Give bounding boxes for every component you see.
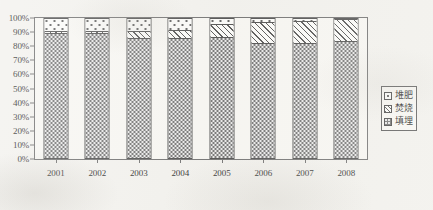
x-axis: 20012002200320042005200620072008 bbox=[35, 160, 367, 184]
bar-segment-landfill[interactable] bbox=[169, 39, 192, 158]
stacked-bar[interactable] bbox=[292, 18, 317, 159]
bar-segment-compost[interactable] bbox=[169, 19, 192, 31]
bar-slot bbox=[77, 18, 119, 159]
x-axis-slot: 2001 bbox=[35, 160, 77, 184]
bar-segment-incineration[interactable] bbox=[86, 32, 109, 34]
y-axis-tick-label: 90% bbox=[13, 27, 29, 37]
bar-segment-compost[interactable] bbox=[127, 19, 150, 32]
x-axis-tick-label: 2003 bbox=[118, 168, 160, 178]
stacked-bar[interactable] bbox=[85, 18, 110, 159]
y-axis-tick-label: 60% bbox=[13, 69, 29, 79]
y-axis-tick-label: 30% bbox=[13, 112, 29, 122]
bar-segment-landfill[interactable] bbox=[210, 38, 233, 158]
chart-legend: 堆肥焚烧填埋 bbox=[381, 86, 417, 131]
y-axis-tick-label: 50% bbox=[13, 84, 29, 94]
stacked-bar[interactable] bbox=[334, 18, 359, 159]
legend-item-label: 填埋 bbox=[395, 117, 413, 126]
x-axis-slot: 2002 bbox=[77, 160, 119, 184]
legend-item[interactable]: 填埋 bbox=[384, 115, 413, 128]
x-axis-tick-label: 2006 bbox=[243, 168, 285, 178]
x-axis-slot: 2005 bbox=[201, 160, 243, 184]
y-axis: 100%90%80%70%60%50%40%30%20%10%0% bbox=[0, 17, 34, 160]
bar-segment-incineration[interactable] bbox=[127, 32, 150, 39]
legend-item[interactable]: 焚烧 bbox=[384, 102, 413, 115]
stacked-bar[interactable] bbox=[43, 18, 68, 159]
y-axis-tick-label: 10% bbox=[13, 140, 29, 150]
bar-slot bbox=[118, 18, 160, 159]
x-axis-tick-mark bbox=[305, 160, 306, 163]
stacked-bar[interactable] bbox=[209, 18, 234, 159]
bar-segment-compost[interactable] bbox=[44, 19, 67, 32]
y-axis-tick-label: 0% bbox=[17, 154, 29, 164]
x-axis-slot: 2003 bbox=[118, 160, 160, 184]
bar-segment-landfill[interactable] bbox=[293, 44, 316, 158]
bar-segment-landfill[interactable] bbox=[86, 34, 109, 158]
bar-segment-incineration[interactable] bbox=[293, 22, 316, 44]
stacked-bar[interactable] bbox=[168, 18, 193, 159]
stacked-bar[interactable] bbox=[251, 18, 276, 159]
x-axis-tick-mark bbox=[222, 160, 223, 163]
bar-segment-incineration[interactable] bbox=[210, 25, 233, 39]
compost-swatch-icon bbox=[384, 92, 392, 100]
bar-segment-compost[interactable] bbox=[210, 19, 233, 25]
x-axis-tick-label: 2001 bbox=[35, 168, 77, 178]
x-axis-tick-label: 2002 bbox=[77, 168, 119, 178]
stacked-bar[interactable] bbox=[126, 18, 151, 159]
bars-container bbox=[35, 18, 367, 159]
x-axis-tick-label: 2008 bbox=[326, 168, 368, 178]
landfill-swatch-icon bbox=[384, 118, 392, 126]
x-axis-slot: 2007 bbox=[284, 160, 326, 184]
x-axis-slot: 2006 bbox=[243, 160, 285, 184]
incineration-swatch-icon bbox=[384, 105, 392, 113]
stacked-bar-chart: 100%90%80%70%60%50%40%30%20%10%0% 200120… bbox=[0, 0, 433, 210]
bar-segment-compost[interactable] bbox=[335, 19, 358, 20]
x-axis-tick-mark bbox=[56, 160, 57, 163]
bar-segment-incineration[interactable] bbox=[169, 31, 192, 39]
x-axis-tick-mark bbox=[263, 160, 264, 163]
y-axis-tick-label: 70% bbox=[13, 55, 29, 65]
y-axis-tick-label: 100% bbox=[9, 13, 29, 23]
bar-segment-landfill[interactable] bbox=[252, 44, 275, 158]
legend-item[interactable]: 堆肥 bbox=[384, 89, 413, 102]
bar-slot bbox=[35, 18, 77, 159]
y-axis-tick-label: 20% bbox=[13, 126, 29, 136]
bar-segment-compost[interactable] bbox=[86, 19, 109, 32]
x-axis-tick-label: 2005 bbox=[201, 168, 243, 178]
bar-segment-incineration[interactable] bbox=[252, 23, 275, 44]
y-axis-tick-label: 40% bbox=[13, 98, 29, 108]
bar-slot bbox=[284, 18, 326, 159]
x-axis-tick-mark bbox=[346, 160, 347, 163]
x-axis-tick-mark bbox=[139, 160, 140, 163]
x-axis-tick-mark bbox=[97, 160, 98, 163]
bar-segment-compost[interactable] bbox=[293, 19, 316, 22]
y-axis-tick-label: 80% bbox=[13, 41, 29, 51]
x-axis-slot: 2004 bbox=[160, 160, 202, 184]
bar-slot bbox=[160, 18, 202, 159]
bar-slot bbox=[201, 18, 243, 159]
bar-segment-landfill[interactable] bbox=[44, 34, 67, 158]
legend-item-label: 堆肥 bbox=[395, 91, 413, 100]
x-axis-slot: 2008 bbox=[326, 160, 368, 184]
bar-segment-incineration[interactable] bbox=[44, 32, 67, 34]
bar-segment-landfill[interactable] bbox=[127, 39, 150, 158]
x-axis-tick-label: 2007 bbox=[284, 168, 326, 178]
bar-segment-landfill[interactable] bbox=[335, 42, 358, 158]
bar-segment-incineration[interactable] bbox=[335, 20, 358, 42]
x-axis-tick-mark bbox=[180, 160, 181, 163]
bar-slot bbox=[326, 18, 368, 159]
legend-item-label: 焚烧 bbox=[395, 104, 413, 113]
x-axis-tick-label: 2004 bbox=[160, 168, 202, 178]
bar-slot bbox=[243, 18, 285, 159]
bar-segment-compost[interactable] bbox=[252, 19, 275, 23]
